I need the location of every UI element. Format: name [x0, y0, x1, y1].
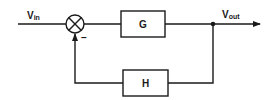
feedback-block-h: H [123, 70, 168, 96]
feedback-wire-right [168, 24, 213, 83]
feedback-sign: – [81, 32, 87, 43]
feedback-block-diagram: Vin – G Vout H [0, 0, 277, 100]
forward-block-g: G [121, 11, 165, 37]
output-label: Vout [222, 9, 240, 20]
block-g-label: G [139, 19, 147, 30]
block-h-label: H [142, 78, 149, 89]
summing-junction-icon [66, 15, 84, 33]
input-label: Vin [27, 10, 40, 21]
